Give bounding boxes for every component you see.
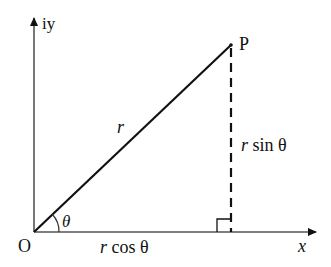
radius-label: r [117, 117, 125, 137]
adjacent-label: r cos θ [100, 237, 149, 257]
x-axis-label: x [297, 236, 306, 256]
angle-arc [52, 214, 59, 232]
y-axis-label: iy [42, 14, 56, 33]
angle-label: θ [62, 212, 70, 231]
origin-label: O [18, 236, 31, 256]
polar-form-diagram: iy x O P r θ r cos θ r sin θ [0, 0, 331, 267]
opposite-label: r sin θ [241, 135, 287, 155]
point-p-dot [229, 43, 233, 47]
point-label: P [239, 34, 249, 54]
right-angle-marker [217, 219, 231, 232]
radius-line [34, 45, 231, 232]
